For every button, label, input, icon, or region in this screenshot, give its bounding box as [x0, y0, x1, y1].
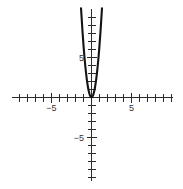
x-tick-label-pos5: 5: [129, 103, 134, 113]
graph-canvas: −5 5 5 −5: [0, 0, 183, 189]
x-tick-label-neg5: −5: [46, 103, 56, 113]
y-tick-label-neg5: −5: [74, 133, 84, 143]
parabola-plot: −5 5 5 −5: [0, 0, 183, 189]
y-tick-label-pos5: 5: [79, 53, 84, 63]
